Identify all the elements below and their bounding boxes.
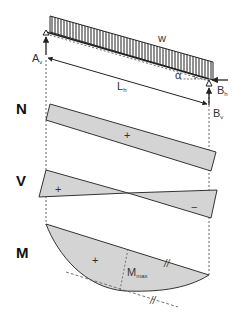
m-sign: + — [92, 254, 98, 266]
n-diagram-label: N — [16, 100, 27, 117]
reaction-b-h: Bh — [217, 84, 228, 97]
v-sign-negative: − — [191, 201, 197, 213]
span-label: Lh — [117, 80, 126, 93]
reaction-a-v: Av — [32, 52, 42, 65]
m-diagram — [46, 224, 209, 291]
n-sign: + — [124, 129, 130, 141]
m-diagram-label: M — [16, 244, 29, 261]
support-a — [43, 30, 49, 55]
distributed-load — [50, 16, 213, 80]
reaction-b-v: Bv — [213, 107, 223, 120]
v-diagram-label: V — [16, 172, 26, 189]
v-diagram-positive — [39, 170, 128, 197]
n-diagram — [46, 104, 216, 171]
angle-label: α — [175, 69, 182, 81]
parallel-mark-lower: // — [149, 295, 157, 306]
v-diagram-negative — [128, 190, 217, 218]
load-label: w — [157, 32, 166, 44]
v-sign-positive: + — [55, 183, 61, 195]
inclined-beam-diagram: α w Av Bh Bv Lh N + V + − M + Mmax // // — [0, 0, 237, 325]
